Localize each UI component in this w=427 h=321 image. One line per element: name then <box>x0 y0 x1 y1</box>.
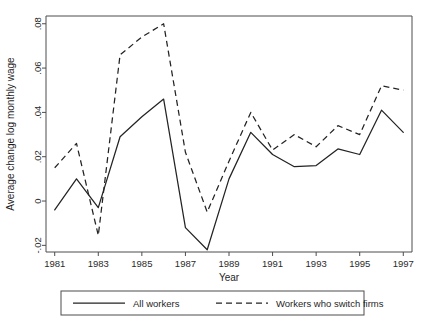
x-tick-label: 1983 <box>88 258 109 269</box>
x-tick-label: 1987 <box>175 258 196 269</box>
series-switchers-line <box>55 24 404 236</box>
y-axis-ticks: -.020.02.04.06.08 <box>32 17 46 253</box>
x-tick-label: 1995 <box>349 258 370 269</box>
y-tick-label: .06 <box>32 61 43 74</box>
y-axis-title: Average change log monthly wage <box>5 57 16 211</box>
x-axis-ticks: 198119831985198719891991199319951997 <box>44 252 414 269</box>
legend-label-all-workers: All workers <box>133 298 180 309</box>
chart-legend: All workers Workers who switch firms <box>61 291 384 315</box>
y-tick-label: .04 <box>32 106 43 119</box>
data-series-group <box>55 24 404 250</box>
legend-label-switchers: Workers who switch firms <box>276 298 384 309</box>
x-axis-title: Year <box>219 272 240 283</box>
line-chart-canvas: -.020.02.04.06.08 1981198319851987198919… <box>0 0 427 321</box>
y-tick-label: .02 <box>32 150 43 163</box>
x-tick-label: 1989 <box>218 258 239 269</box>
x-tick-label: 1985 <box>131 258 152 269</box>
series-all-workers-line <box>55 99 404 250</box>
chart-figure: -.020.02.04.06.08 1981198319851987198919… <box>0 0 427 321</box>
x-tick-label: 1997 <box>393 258 414 269</box>
x-tick-label: 1981 <box>44 258 65 269</box>
y-tick-label: -.02 <box>32 237 43 253</box>
x-tick-label: 1991 <box>262 258 283 269</box>
y-tick-label: .08 <box>32 17 43 30</box>
x-tick-label: 1993 <box>306 258 327 269</box>
y-tick-label: 0 <box>32 198 43 203</box>
